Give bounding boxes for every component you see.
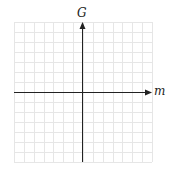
y-axis-arrow-icon [80, 22, 86, 29]
x-axis-label: m [154, 85, 165, 97]
y-axis-label: G [77, 7, 87, 19]
coordinate-plane [0, 0, 176, 177]
x-axis-arrow-icon [145, 90, 152, 96]
